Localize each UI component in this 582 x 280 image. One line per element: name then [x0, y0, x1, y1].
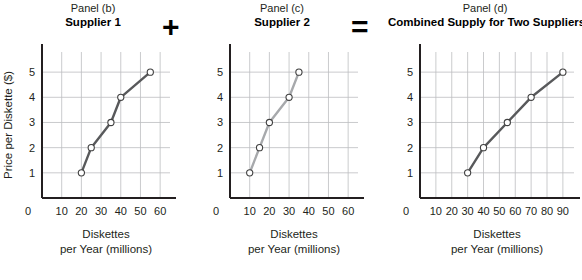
x-tick-label: 40 [303, 205, 315, 217]
panel-d-plot: 123451020304050607080900Diskettesper Yea… [388, 34, 582, 280]
y-tick-label: 4 [29, 91, 35, 103]
x-tick-label: 30 [95, 205, 107, 217]
data-point-marker [256, 145, 262, 151]
x-tick-label: 80 [541, 205, 553, 217]
y-tick-label: 5 [407, 66, 413, 78]
x-tick-label: 40 [115, 205, 127, 217]
x-axis-label-line2: per Year (millions) [451, 243, 543, 255]
equals-operator-icon: = [351, 12, 369, 42]
data-point-marker [147, 69, 153, 75]
x-tick-label: 60 [342, 205, 354, 217]
x-tick-label: 20 [75, 205, 87, 217]
origin-label: 0 [213, 205, 219, 217]
x-tick-label: 20 [446, 205, 458, 217]
data-point-marker [560, 69, 566, 75]
panel-c-title: Supplier 2 [204, 16, 360, 29]
data-point-marker [108, 119, 114, 125]
y-tick-label: 3 [29, 116, 35, 128]
data-point-marker [504, 119, 510, 125]
plus-operator-icon: + [162, 12, 180, 42]
x-tick-label: 50 [322, 205, 334, 217]
y-tick-label: 2 [407, 142, 413, 154]
y-axis-label: Price per Diskette ($) [2, 71, 14, 179]
x-tick-label: 40 [477, 205, 489, 217]
y-tick-label: 2 [29, 142, 35, 154]
data-point-marker [528, 94, 534, 100]
x-tick-label: 70 [525, 205, 537, 217]
x-tick-label: 90 [557, 205, 569, 217]
supply-curve-figure: Panel (b) Supplier 1 123451020304050600D… [0, 0, 582, 280]
data-point-marker [118, 94, 124, 100]
y-tick-label: 3 [407, 116, 413, 128]
x-axis-label-line1: Diskettes [473, 228, 521, 240]
x-tick-label: 10 [244, 205, 256, 217]
data-point-marker [286, 94, 292, 100]
x-tick-label: 60 [154, 205, 166, 217]
panel-d-title: Combined Supply for Two Suppliers [388, 16, 582, 29]
x-tick-label: 60 [509, 205, 521, 217]
panel-b-caption: Panel (b) [14, 2, 172, 15]
origin-label: 0 [25, 205, 31, 217]
panel-supplier-1: Panel (b) Supplier 1 123451020304050600D… [0, 0, 176, 280]
x-axis-label-line1: Diskettes [82, 228, 130, 240]
x-tick-label: 10 [56, 205, 68, 217]
x-tick-label: 10 [430, 205, 442, 217]
y-tick-label: 1 [217, 167, 223, 179]
panel-c-caption: Panel (c) [204, 2, 360, 15]
x-tick-label: 50 [134, 205, 146, 217]
data-point-marker [296, 69, 302, 75]
panel-b-plot: 123451020304050600Diskettesper Year (mil… [0, 34, 176, 280]
panel-b-title: Supplier 1 [14, 16, 172, 29]
x-axis-label-line2: per Year (millions) [248, 243, 340, 255]
y-tick-label: 1 [407, 167, 413, 179]
x-tick-label: 30 [283, 205, 295, 217]
y-tick-label: 3 [217, 116, 223, 128]
data-point-marker [78, 170, 84, 176]
data-point-marker [266, 119, 272, 125]
x-axis-label-line2: per Year (millions) [60, 243, 152, 255]
panel-c-plot: 123451020304050600Diskettesper Year (mil… [198, 34, 366, 280]
y-tick-label: 4 [217, 91, 223, 103]
x-tick-label: 30 [462, 205, 474, 217]
data-point-marker [465, 170, 471, 176]
y-tick-label: 2 [217, 142, 223, 154]
y-tick-label: 1 [29, 167, 35, 179]
data-point-marker [480, 145, 486, 151]
data-point-marker [247, 170, 253, 176]
origin-label: 0 [403, 205, 409, 217]
x-tick-label: 50 [493, 205, 505, 217]
y-tick-label: 5 [217, 66, 223, 78]
panel-d-caption: Panel (d) [388, 2, 582, 15]
data-point-marker [88, 145, 94, 151]
y-tick-label: 4 [407, 91, 413, 103]
x-axis-label-line1: Diskettes [270, 228, 318, 240]
panel-combined-supply: Panel (d) Combined Supply for Two Suppli… [388, 0, 582, 280]
x-tick-label: 20 [263, 205, 275, 217]
panel-supplier-2: Panel (c) Supplier 2 123451020304050600D… [198, 0, 366, 280]
y-tick-label: 5 [29, 66, 35, 78]
